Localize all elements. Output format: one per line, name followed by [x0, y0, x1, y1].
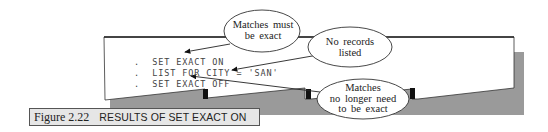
figure-2-22: . SET EXACT ON . LIST FOR CITY = 'SAN' .… — [0, 0, 548, 132]
prompt-dot: . — [134, 79, 140, 89]
callout-line: listed — [309, 48, 391, 59]
callout-line: to be exact — [318, 104, 408, 115]
callout-text-matches-no-longer-exact: Matches no longer need to be exact — [318, 83, 408, 115]
figure-caption: Figure 2.22RESULTS OF SET EXACT ON — [29, 108, 260, 126]
command-line-3: . SET EXACT OFF — [110, 69, 230, 99]
edge-marker — [410, 88, 415, 99]
command-text: SET EXACT OFF — [152, 79, 230, 89]
callout-line: No records — [309, 37, 391, 48]
callout-text-no-records-listed: No records listed — [309, 37, 391, 58]
callout-line: be exact — [224, 31, 302, 42]
figure-number: Figure 2.22 — [30, 110, 89, 124]
callout-line: Matches must — [224, 20, 302, 31]
callout-line: Matches — [318, 83, 408, 94]
callout-text-matches-must-be-exact: Matches must be exact — [224, 20, 302, 41]
figure-title: RESULTS OF SET EXACT ON — [89, 111, 246, 123]
